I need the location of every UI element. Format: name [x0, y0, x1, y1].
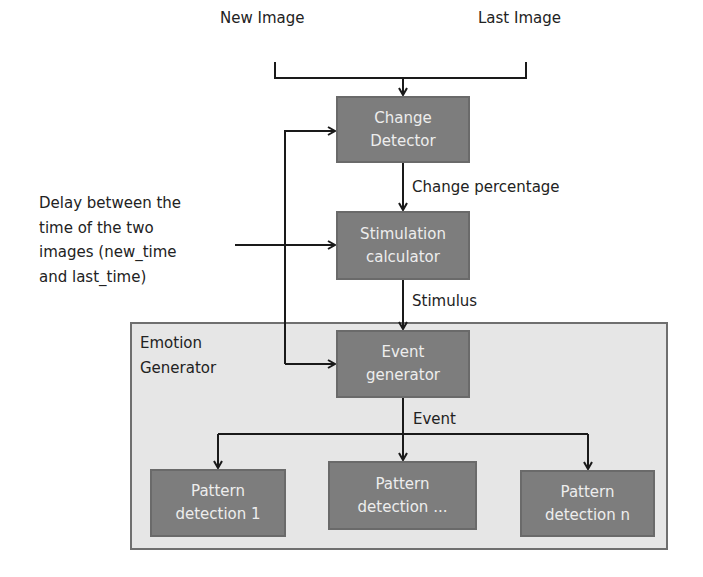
change-detector-line1: Change — [370, 107, 435, 130]
stimulus-label: Stimulus — [412, 289, 477, 313]
new-image-label: New Image — [220, 6, 304, 30]
stimulation-calculator-line1: Stimulation — [360, 223, 446, 246]
pattern-detection-n-node[interactable]: Pattern detection n — [520, 470, 655, 537]
new-image-connector — [275, 62, 526, 78]
event-generator-line2: generator — [366, 364, 440, 387]
pattern-1-line1: Pattern — [175, 480, 260, 503]
pattern-mid-line1: Pattern — [358, 473, 448, 496]
delay-label-line3: images (new_time — [39, 240, 181, 265]
event-generator-line1: Event — [366, 341, 440, 364]
pattern-n-line1: Pattern — [545, 481, 630, 504]
event-label: Event — [413, 407, 456, 431]
change-detector-node[interactable]: Change Detector — [336, 96, 470, 163]
delay-label: Delay between the time of the two images… — [39, 191, 181, 289]
change-detector-line2: Detector — [370, 130, 435, 153]
last-image-label: Last Image — [478, 6, 561, 30]
delay-label-line1: Delay between the — [39, 191, 181, 216]
event-generator-node[interactable]: Event generator — [336, 330, 470, 398]
pattern-n-line2: detection n — [545, 504, 630, 527]
stimulation-calculator-line2: calculator — [360, 246, 446, 269]
change-percentage-label: Change percentage — [412, 175, 560, 199]
pattern-1-line2: detection 1 — [175, 503, 260, 526]
pattern-detection-1-node[interactable]: Pattern detection 1 — [150, 469, 286, 537]
pattern-detection-mid-node[interactable]: Pattern detection ... — [328, 461, 477, 530]
delay-label-line4: and last_time) — [39, 265, 181, 290]
delay-label-line2: time of the two — [39, 216, 181, 241]
delay-feedback-to-change-detector-arrow — [285, 131, 335, 364]
diagram-canvas: Emotion Generator — [0, 0, 703, 577]
pattern-mid-line2: detection ... — [358, 496, 448, 519]
stimulation-calculator-node[interactable]: Stimulation calculator — [336, 211, 470, 280]
